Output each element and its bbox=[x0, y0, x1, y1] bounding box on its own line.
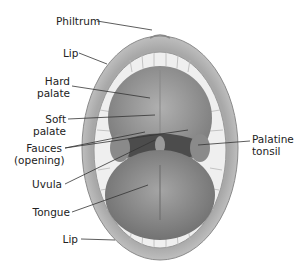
label-hard-palate-line2: palate bbox=[36, 87, 70, 99]
label-philtrum: Philtrum bbox=[56, 15, 100, 27]
label-hard-palate-line1: Hard bbox=[40, 75, 70, 87]
label-soft-palate-line2: palate bbox=[30, 125, 66, 137]
label-fauces-line2: (opening) bbox=[14, 154, 62, 166]
label-uvula: Uvula bbox=[30, 178, 62, 190]
label-fauces-line1: Fauces bbox=[20, 142, 62, 154]
label-lower-lip: Lip bbox=[60, 233, 78, 245]
palatine-tonsil bbox=[190, 134, 210, 162]
label-tongue: Tongue bbox=[30, 206, 70, 218]
mouth-anatomy-diagram: Philtrum Lip Hard palate Soft palate Fau… bbox=[0, 0, 300, 270]
label-soft-palate-line1: Soft bbox=[40, 113, 66, 125]
label-palatine-tonsil-line2: tonsil bbox=[252, 145, 281, 157]
label-palatine-tonsil-line1: Palatine bbox=[252, 133, 294, 145]
label-upper-lip: Lip bbox=[63, 47, 78, 59]
